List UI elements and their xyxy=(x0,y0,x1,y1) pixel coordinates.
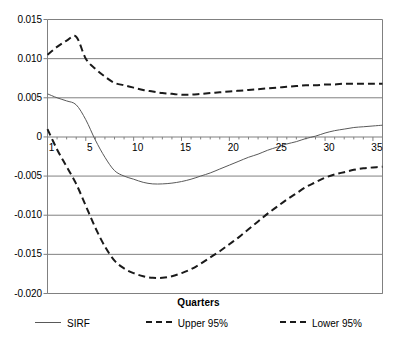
y-axis-tick-label: -0.005 xyxy=(0,171,42,181)
y-axis-tick-label: 0.005 xyxy=(0,93,42,103)
plot-frame xyxy=(48,20,383,294)
impulse-response-plot xyxy=(0,0,397,342)
x-axis-ticks xyxy=(48,137,383,141)
legend-swatch-solid-icon xyxy=(35,319,61,327)
plot-gridlines xyxy=(48,20,383,294)
legend-label-sirf: SIRF xyxy=(67,318,90,329)
legend-item-sirf: SIRF xyxy=(35,318,90,329)
legend-label-upper95: Upper 95% xyxy=(178,318,228,329)
y-axis-tick-label: -0.010 xyxy=(0,210,42,220)
y-axis-ticks xyxy=(44,20,48,294)
chart-figure: 0.0150.0100.0050-0.005-0.010-0.015-0.020… xyxy=(0,0,397,342)
x-axis-tick-label: 10 xyxy=(125,143,151,153)
y-axis-tick-label: 0.015 xyxy=(0,15,42,25)
x-axis-tick-label: 20 xyxy=(220,143,246,153)
series-line-upper-95 xyxy=(48,36,383,95)
y-axis-tick-label: -0.015 xyxy=(0,249,42,259)
x-axis-tick-label: 30 xyxy=(316,143,342,153)
x-axis-tick-label: 1 xyxy=(39,143,65,153)
legend-label-lower95: Lower 95% xyxy=(312,318,362,329)
legend-swatch-dashed-lower-icon xyxy=(280,319,306,327)
x-axis-tick-label: 15 xyxy=(173,143,199,153)
legend-item-upper95: Upper 95% xyxy=(146,318,228,329)
x-axis-tick-label: 25 xyxy=(268,143,294,153)
legend-swatch-dashed-upper-icon xyxy=(146,319,172,327)
data-series-layer xyxy=(48,36,383,278)
chart-legend: SIRF Upper 95% Lower 95% xyxy=(0,313,397,333)
series-line-sirf xyxy=(48,94,383,184)
x-axis-tick-label: 35 xyxy=(364,143,390,153)
y-axis-tick-label: 0 xyxy=(0,132,42,142)
x-axis-tick-label: 5 xyxy=(77,143,103,153)
y-axis-tick-label: 0.010 xyxy=(0,54,42,64)
legend-item-lower95: Lower 95% xyxy=(280,318,362,329)
x-axis-title: Quarters xyxy=(0,297,397,308)
